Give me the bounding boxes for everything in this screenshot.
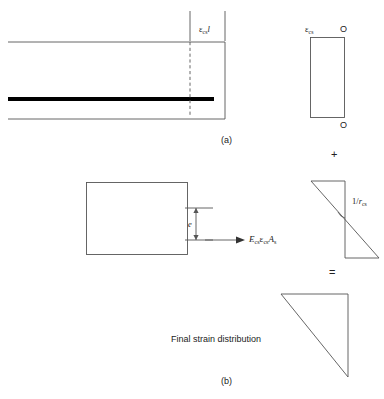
restraining-force-label: EcsεcsAs: [249, 235, 276, 245]
equals-operator: =: [329, 267, 335, 278]
uniform-strain-label: εcs: [305, 25, 313, 35]
part-a-shrinkage-strain-block: [311, 38, 345, 118]
shrinkage-strain-figure: εcsl εcs O O (a) + e EcsεcsAs 1/rcs = Fi…: [0, 0, 384, 399]
curvature-numerator: 1/: [352, 196, 359, 206]
caption-part-a: (a): [221, 136, 232, 145]
part-b-final-strain-diagram: [281, 294, 348, 377]
curvature-label: 1/rcs: [352, 197, 367, 207]
part-b-curvature-diagram: [311, 181, 379, 258]
zero-label-top: O: [340, 25, 347, 34]
plus-operator: +: [331, 149, 337, 160]
caption-part-b: (b): [221, 377, 232, 386]
epsilon-subscript: cs: [309, 29, 314, 35]
force-arrowhead: [236, 236, 245, 243]
uniform-strain-rectangle: [311, 38, 345, 118]
part-b-section-elevation: [87, 183, 188, 255]
section-rectangle: [87, 183, 188, 255]
beam-shortening-label: εcsl: [199, 25, 210, 35]
part-a-beam-elevation: [8, 11, 225, 119]
dimension-arrow-down: [193, 235, 198, 240]
length-symbol: l: [207, 24, 209, 34]
final-strain-distribution-label: Final strain distribution: [171, 335, 261, 344]
zero-label-bottom: O: [340, 121, 347, 130]
radius-subscript: cs: [362, 201, 367, 207]
area-subscript: s: [274, 239, 276, 245]
eccentricity-label: e: [188, 220, 192, 229]
final-strain-diagonal: [281, 294, 348, 377]
dimension-arrow-up: [193, 208, 198, 213]
part-b-restraining-force: [205, 236, 245, 243]
